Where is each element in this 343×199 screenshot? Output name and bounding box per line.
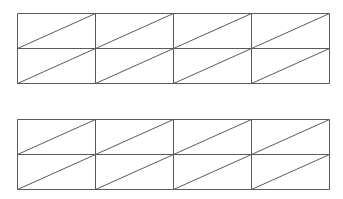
cell-diagonal-line [96, 120, 174, 155]
cell-diagonal-line [252, 120, 330, 155]
cell-diagonal-line [252, 49, 330, 84]
triangulated-grids-diagram [0, 0, 343, 199]
cell-diagonal-line [18, 49, 96, 84]
cell-diagonal-line [252, 14, 330, 49]
cell-diagonal-line [174, 120, 252, 155]
cell-diagonal-line [252, 155, 330, 190]
cell-diagonal-line [174, 155, 252, 190]
bottom-grid [18, 120, 330, 190]
cell-diagonal-line [18, 155, 96, 190]
cell-diagonal-line [174, 14, 252, 49]
cell-diagonal-line [96, 49, 174, 84]
top-grid [18, 14, 330, 84]
cell-diagonal-line [174, 49, 252, 84]
cell-diagonal-line [18, 14, 96, 49]
cell-diagonal-line [18, 120, 96, 155]
cell-diagonal-line [96, 14, 174, 49]
cell-diagonal-line [96, 155, 174, 190]
